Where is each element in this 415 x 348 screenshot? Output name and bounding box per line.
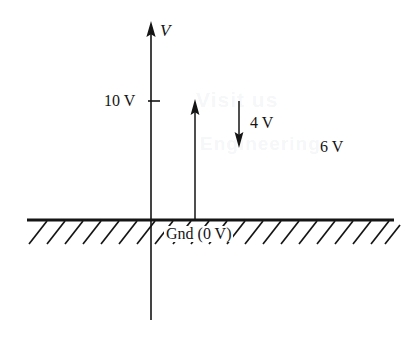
caption-ghost xyxy=(168,332,171,342)
v-axis-label: V xyxy=(160,22,170,39)
diagram-canvas xyxy=(0,0,415,348)
arrow-drop-4v xyxy=(235,101,244,148)
tick-label-10v: 10 V xyxy=(104,93,135,109)
drop-label-4v: 4 V xyxy=(250,115,273,131)
voltage-level-diagram: Visit us Engineering xyxy=(0,0,415,348)
result-label-6v: 6 V xyxy=(320,139,343,155)
ground-label: Gnd (0 V) xyxy=(164,226,233,242)
arrow-rise-10v xyxy=(191,99,200,220)
v-axis xyxy=(146,21,155,320)
